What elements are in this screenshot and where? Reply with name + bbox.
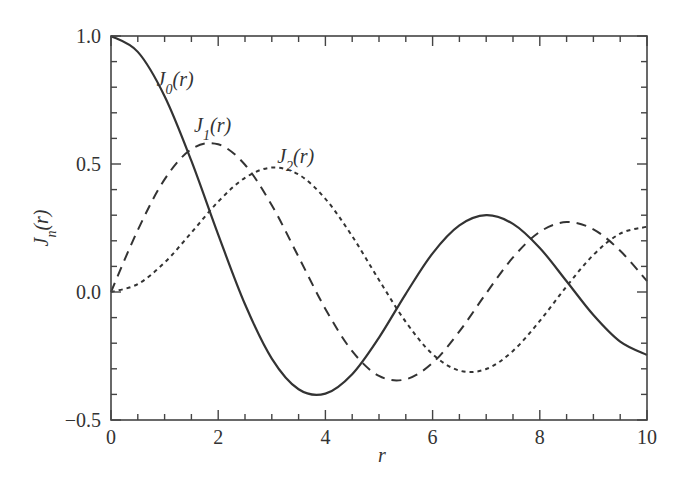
curve-label: J1(r) [194,114,231,143]
y-tick-label: 0.0 [76,281,101,303]
x-tick-label: 0 [106,426,116,448]
axis-ticks [111,36,647,420]
y-tick-label: −0.5 [65,409,101,431]
curve-labels: J0(r)J1(r)J2(r) [157,68,315,173]
curve-j2r [111,168,647,373]
y-axis-label: Jn(r) [30,209,59,246]
x-tick-label: 2 [213,426,223,448]
tick-labels: 0246810−0.50.00.51.0 [65,25,657,448]
curve-j1r [111,143,647,380]
x-axis-label: r [378,444,386,466]
x-tick-label: 10 [637,426,657,448]
x-tick-label: 4 [320,426,330,448]
x-tick-label: 6 [428,426,438,448]
x-tick-label: 8 [535,426,545,448]
y-tick-label: 0.5 [76,153,101,175]
bessel-chart: 0246810−0.50.00.51.0 r Jn(r) J0(r)J1(r)J… [0,0,683,484]
plot-frame [111,36,647,420]
y-tick-label: 1.0 [76,25,101,47]
